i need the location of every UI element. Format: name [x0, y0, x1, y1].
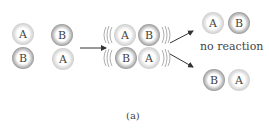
down-arrow-icon — [170, 54, 193, 67]
atom-label: B — [210, 74, 218, 87]
atom-label: B — [235, 17, 243, 30]
atom-b: B — [203, 69, 225, 91]
up-arrow-icon — [170, 31, 193, 43]
atom-label: B — [122, 52, 130, 65]
figure-caption: (a) — [126, 110, 140, 121]
atom-b: B — [115, 47, 137, 69]
atom-a: A — [228, 69, 250, 91]
atom-b: B — [51, 24, 73, 46]
atom-label: A — [235, 74, 243, 87]
atom-label: B — [58, 29, 66, 42]
atom-a: A — [202, 12, 224, 34]
atom-a: A — [114, 24, 136, 46]
atom-label: A — [19, 28, 27, 41]
atom-a: A — [52, 48, 74, 70]
atom-a: A — [12, 23, 34, 45]
atom-label: A — [59, 53, 67, 66]
atom-label: A — [209, 17, 217, 30]
atom-label: B — [145, 29, 153, 42]
atom-b: B — [228, 12, 250, 34]
atom-b: B — [12, 47, 34, 69]
atom-b: B — [138, 24, 160, 46]
atom-label: A — [145, 52, 153, 65]
no-reaction-label: no reaction — [200, 40, 263, 53]
atom-label: A — [121, 29, 129, 42]
atom-a: A — [138, 47, 160, 69]
atom-label: B — [19, 52, 27, 65]
